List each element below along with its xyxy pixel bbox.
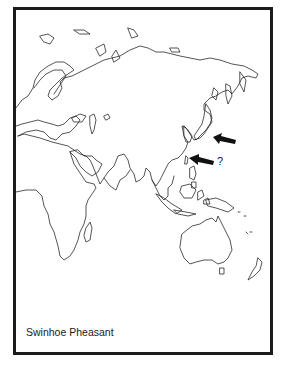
map-caption: Swinhoe Pheasant [26,326,114,338]
africa-coastline [16,152,96,260]
new-zealand [248,258,262,280]
pacific-islands [238,212,252,234]
borneo [180,184,196,198]
caspian-sea [90,114,96,134]
arabia-coastline [70,150,102,176]
new-guinea [206,198,234,212]
mediterranean-coastline [16,116,80,140]
uncertainty-question-mark: ? [217,155,223,167]
indochina [152,176,174,200]
world-map [0,0,283,367]
tasmania [220,268,224,274]
sulawesi-islands [198,190,210,204]
taiwan [185,156,188,164]
arrow-japan-marker [213,133,236,144]
korea [184,126,192,142]
madagascar [84,222,92,242]
australia-coastline [180,216,232,264]
japan [194,88,218,140]
java [174,210,196,216]
arrow-taiwan-marker [189,154,214,165]
aral-sea [104,114,110,120]
arctic-islands [40,28,180,62]
india-coastline [104,170,130,190]
